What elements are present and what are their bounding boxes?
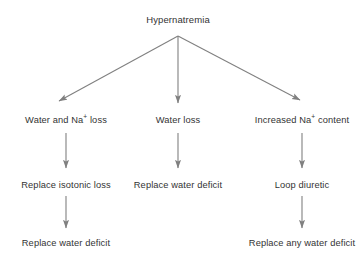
branch-right-step-2: Replace any water deficit [249, 238, 355, 248]
branch-right-cause-label: Increased Na+ content [255, 115, 349, 125]
branch-left-step-2: Replace water deficit [22, 238, 110, 248]
flowchart-connectors [0, 0, 361, 269]
root-node-hypernatremia: Hypernatremia [146, 15, 210, 25]
branch-middle-cause-label: Water loss [156, 115, 201, 125]
branch-left-cause-label: Water and Na+ loss [25, 115, 107, 125]
branch-middle-step-1: Replace water deficit [134, 180, 222, 190]
connector-root-to-left [59, 36, 178, 101]
branch-left-step-1: Replace isotonic loss [21, 180, 110, 190]
connector-root-to-right [178, 36, 300, 100]
flowchart-diagram: Hypernatremia Water and Na+ loss Replace… [0, 0, 361, 269]
branch-right-step-1: Loop diuretic [275, 180, 330, 190]
